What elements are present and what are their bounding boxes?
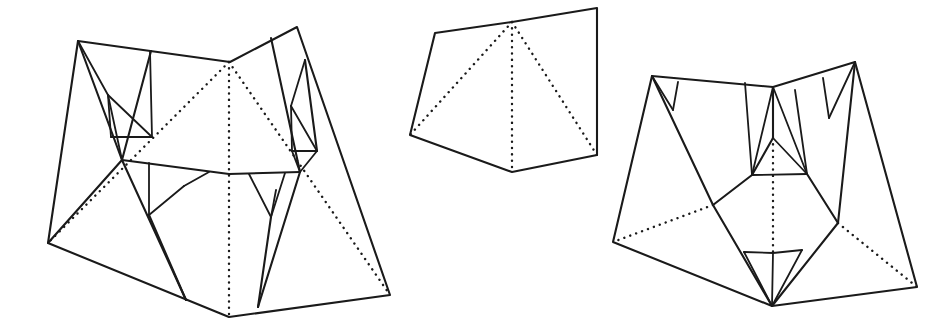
- crease-bottom-vertical: [772, 253, 773, 306]
- diagram-canvas: [0, 0, 949, 332]
- crease-right-small-vertical: [291, 106, 292, 151]
- crease-bottom-left-base: [744, 252, 773, 253]
- crease-pattern-svg: [0, 0, 949, 332]
- crease-apex-base: [752, 174, 807, 175]
